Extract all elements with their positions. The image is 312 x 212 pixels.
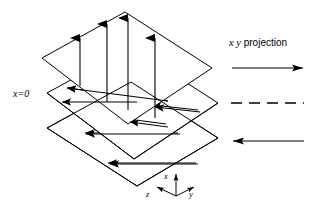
legend-title-italic: x y xyxy=(229,37,241,48)
diagram-canvas xyxy=(0,0,312,212)
axis-label-y: y xyxy=(189,190,193,199)
axis-label-z: z xyxy=(146,190,149,199)
axis-label-x: x xyxy=(164,172,168,181)
legend-title-rest: projection xyxy=(241,37,287,48)
legend-title: x y projection xyxy=(229,37,287,48)
figure-root: x=0 x y projection x y z xyxy=(0,0,312,212)
plane-label-x0: x=0 xyxy=(13,89,29,99)
